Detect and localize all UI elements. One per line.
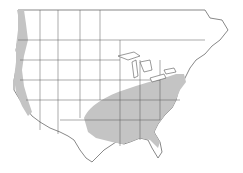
range-map <box>0 0 243 173</box>
